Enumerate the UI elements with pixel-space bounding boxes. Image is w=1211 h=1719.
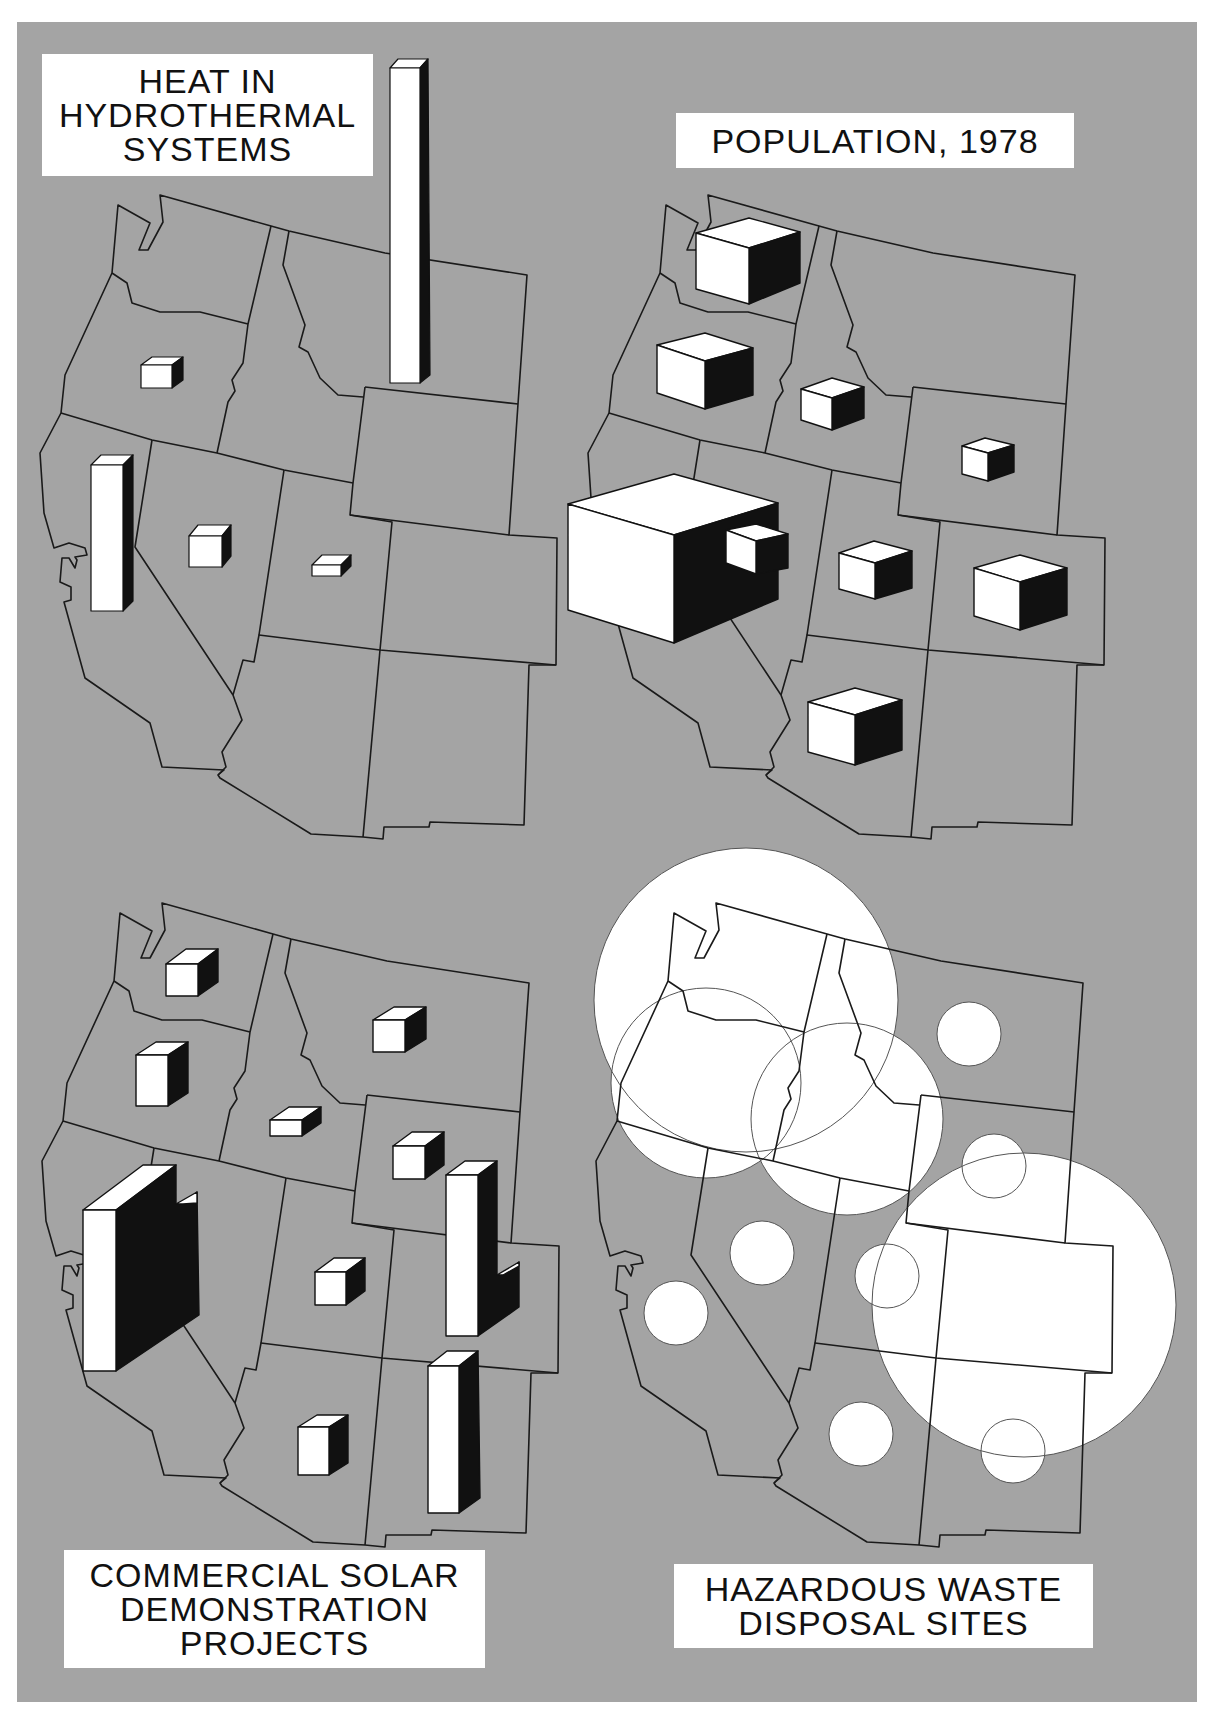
title-line: COMMERCIAL SOLAR: [90, 1558, 460, 1592]
population-symbols: [568, 218, 1067, 765]
population-cube-or: [657, 333, 753, 409]
title-hazardous-waste: HAZARDOUS WASTE DISPOSAL SITES: [674, 1564, 1093, 1648]
heat-prism-or: [141, 357, 183, 388]
solar-prism-az: [298, 1415, 348, 1475]
population-cube-id: [801, 378, 864, 430]
heat-prism-ca: [91, 455, 133, 611]
title-population: POPULATION, 1978: [676, 113, 1074, 168]
title-line: SYSTEMS: [123, 132, 292, 166]
circle-id: [751, 1023, 943, 1215]
population-map: [568, 195, 1105, 839]
population-cube-nv: [726, 524, 788, 574]
heat-prism-mt: [390, 59, 430, 383]
heat-prism-ut: [312, 555, 351, 576]
title-line: HEAT IN: [139, 64, 277, 98]
solar-prism-co: [446, 1161, 519, 1336]
solar-prism-id: [270, 1107, 321, 1136]
solar-prism-wy: [393, 1132, 444, 1179]
title-line: HYDROTHERMAL: [59, 98, 356, 132]
circle-co: [872, 1153, 1176, 1457]
title-heat-hydrothermal: HEAT IN HYDROTHERMAL SYSTEMS: [42, 54, 373, 176]
population-cube-wa: [696, 218, 800, 304]
heat-prism-nv: [189, 525, 231, 567]
map-panels: [0, 0, 1211, 1719]
solar-prism-wa: [166, 949, 218, 996]
heat-map: [40, 59, 557, 839]
title-line: HAZARDOUS WASTE: [705, 1572, 1063, 1606]
title-line: DEMONSTRATION: [120, 1592, 429, 1626]
population-cube-wy: [962, 438, 1014, 481]
title-commercial-solar: COMMERCIAL SOLAR DEMONSTRATION PROJECTS: [64, 1550, 485, 1668]
population-cube-co: [974, 555, 1067, 630]
solar-prism-mt: [373, 1007, 426, 1052]
population-cube-az: [808, 688, 902, 765]
title-line: POPULATION, 1978: [711, 124, 1038, 158]
solar-prism-nv: [315, 1258, 365, 1305]
title-line: PROJECTS: [180, 1626, 369, 1660]
population-cube-ut: [839, 541, 912, 599]
solar-prism-nm: [428, 1351, 480, 1513]
solar-prism-or: [136, 1042, 188, 1106]
solar-map: [42, 903, 559, 1547]
title-line: DISPOSAL SITES: [738, 1606, 1029, 1640]
hazardous-map: [594, 848, 1176, 1547]
hazardous-circles-fill: [594, 848, 1176, 1483]
solar-prism-ca: [83, 1165, 199, 1371]
